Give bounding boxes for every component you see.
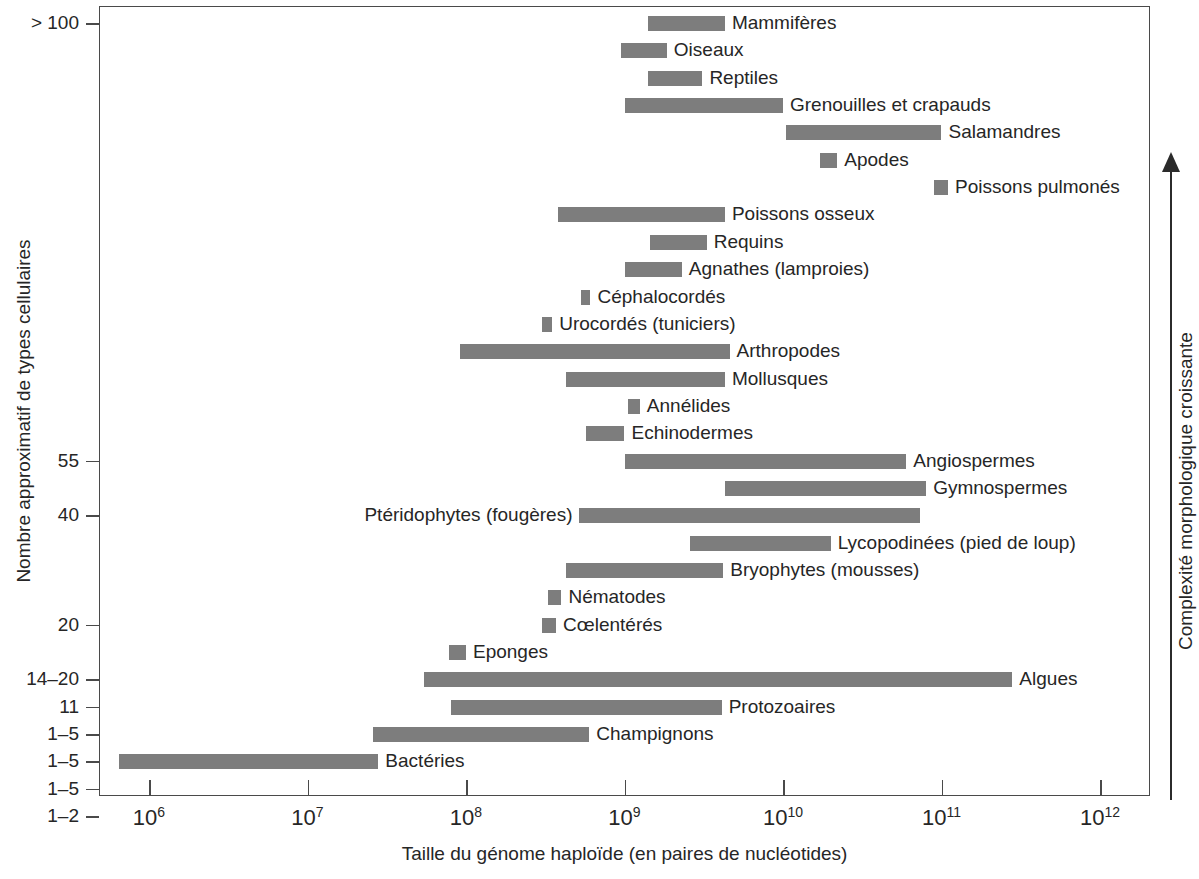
y-tick-mark (86, 761, 99, 763)
range-bar (725, 481, 926, 496)
range-bar (625, 262, 682, 277)
complexity-axis-label: Complexité morphologique croissante (1175, 191, 1197, 791)
bar-row: Angiospermes (99, 450, 1150, 472)
range-bar (460, 344, 729, 359)
y-tick-mark (86, 734, 99, 736)
bar-label: Céphalocordés (597, 286, 725, 308)
range-bar (586, 426, 625, 441)
bar-row: Arthropodes (99, 340, 1150, 362)
y-tick-label: 1–5 (47, 723, 79, 745)
y-tick-label: 1–5 (47, 750, 79, 772)
y-tick-label: 1–5 (47, 778, 79, 800)
bar-label: Champignons (596, 723, 713, 745)
bar-row: Ptéridophytes (fougères) (99, 504, 1150, 526)
y-tick-mark (86, 625, 99, 627)
range-bar (566, 372, 725, 387)
range-bar (542, 317, 553, 332)
y-tick-label: 55 (58, 450, 79, 472)
x-tick-mark (783, 780, 785, 796)
range-bar (542, 618, 556, 633)
bar-label: Requins (714, 231, 784, 253)
x-tick-label: 1010 (763, 804, 803, 831)
bar-row: Bryophytes (mousses) (99, 559, 1150, 581)
y-tick-mark (86, 515, 99, 517)
range-bar (650, 235, 707, 250)
x-tick-mark (308, 780, 310, 796)
bar-row: Cœlentérés (99, 614, 1150, 636)
range-bar (628, 399, 640, 414)
bar-row: Champignons (99, 723, 1150, 745)
x-tick-label: 107 (291, 804, 323, 831)
y-tick-mark (86, 23, 99, 25)
bar-label: Grenouilles et crapauds (790, 94, 991, 116)
y-tick-label: 1–2 (47, 805, 79, 827)
y-tick-mark (86, 461, 99, 463)
bar-label: Poissons osseux (732, 203, 875, 225)
range-bar (579, 508, 919, 523)
bar-label: Annélides (647, 395, 730, 417)
range-bar (786, 125, 941, 140)
bar-row: Bactéries (99, 750, 1150, 772)
bar-label: Oiseaux (674, 39, 744, 61)
bar-label: Reptiles (709, 67, 778, 89)
bar-row: Grenouilles et crapauds (99, 94, 1150, 116)
x-tick-label: 108 (450, 804, 482, 831)
y-tick-mark (86, 679, 99, 681)
range-bar (424, 672, 1013, 687)
range-bar (373, 727, 589, 742)
y-tick-mark (86, 789, 99, 791)
bar-label: Bryophytes (mousses) (730, 559, 919, 581)
bar-row: Urocordés (tuniciers) (99, 313, 1150, 335)
bar-label: Apodes (844, 149, 908, 171)
complexity-axis: Complexité morphologique croissante (1158, 150, 1198, 800)
range-bar (119, 754, 378, 769)
range-bar (648, 71, 703, 86)
bar-row: Céphalocordés (99, 286, 1150, 308)
bar-label: Mollusques (732, 368, 828, 390)
y-axis: Nombre approximatif de types cellulaires… (0, 0, 99, 879)
bar-label: Salamandres (949, 121, 1061, 143)
bar-row: Algues (99, 668, 1150, 690)
bar-label: Agnathes (lamproies) (689, 258, 870, 280)
genome-size-chart-figure: Nombre approximatif de types cellulaires… (0, 0, 1199, 879)
y-axis-title: Nombre approximatif de types cellulaires (13, 181, 35, 641)
complexity-arrow-line (1170, 168, 1172, 800)
bar-row: Annélides (99, 395, 1150, 417)
bar-label: Algues (1019, 668, 1077, 690)
bar-label: Nématodes (568, 586, 665, 608)
bar-label: Protozoaires (729, 696, 836, 718)
bars-layer: MammifèresOiseauxReptilesGrenouilles et … (99, 6, 1150, 796)
y-tick-label: 40 (58, 504, 79, 526)
bar-label: Mammifères (732, 12, 837, 34)
bar-row: Reptiles (99, 67, 1150, 89)
range-bar (625, 98, 784, 113)
range-bar (621, 43, 667, 58)
bar-row: Nématodes (99, 586, 1150, 608)
range-bar (449, 645, 466, 660)
bar-row: Apodes (99, 149, 1150, 171)
bar-row: Protozoaires (99, 696, 1150, 718)
range-bar (625, 454, 907, 469)
bar-row: Mollusques (99, 368, 1150, 390)
x-tick-mark (149, 780, 151, 796)
y-tick-label: 20 (58, 614, 79, 636)
bar-label: Cœlentérés (563, 614, 662, 636)
y-tick-mark (86, 816, 99, 818)
bar-label: Gymnospermes (933, 477, 1067, 499)
bar-row: Echinodermes (99, 422, 1150, 444)
bar-row: Agnathes (lamproies) (99, 258, 1150, 280)
x-tick-label: 1012 (1080, 804, 1120, 831)
bar-label: Poissons pulmonés (955, 176, 1120, 198)
y-tick-mark (86, 707, 99, 709)
bar-label: Arthropodes (737, 340, 841, 362)
range-bar (451, 700, 722, 715)
bar-label: Ptéridophytes (fougères) (364, 504, 572, 526)
x-tick-mark (1100, 780, 1102, 796)
y-tick-label: 14–20 (26, 668, 79, 690)
y-tick-label: > 100 (31, 12, 79, 34)
bar-label: Echinodermes (632, 422, 753, 444)
bar-label: Angiospermes (913, 450, 1034, 472)
range-bar (648, 16, 725, 31)
bar-label: Lycopodinées (pied de loup) (838, 532, 1076, 554)
bar-row: Oiseaux (99, 39, 1150, 61)
